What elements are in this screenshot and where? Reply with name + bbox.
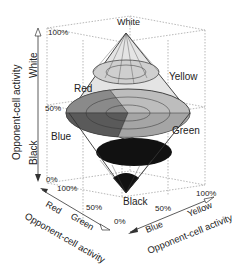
solid-blue-label: Blue xyxy=(51,131,71,142)
left-tick-50: 50% xyxy=(86,203,102,212)
solid-white-label: White xyxy=(117,17,140,27)
vertical-tick-0: 0% xyxy=(46,175,58,184)
vertical-axis-black-label: Black xyxy=(28,140,39,165)
left-axis-title: Opponent-cell activity xyxy=(23,210,107,265)
right-tick-100: 100% xyxy=(196,189,216,198)
left-axis-red-label: Red xyxy=(44,199,63,216)
right-axis-blue-label: Blue xyxy=(144,219,164,235)
right-tick-50: 50% xyxy=(155,204,171,213)
vertical-tick-50: 50% xyxy=(45,104,61,113)
right-tick-0: 0% xyxy=(114,217,126,226)
solid-black-label: Black xyxy=(123,196,148,207)
solid-green-label: Green xyxy=(172,125,200,136)
solid-red-label: Red xyxy=(74,83,92,94)
solid-yellow-label: Yellow xyxy=(169,71,198,82)
vertical-axis-white-label: White xyxy=(28,52,39,78)
vertical-axis-title: Opponent-cell activity xyxy=(11,64,22,160)
opponent-color-space-diagram: Opponent-cell activity White Black 100% … xyxy=(0,0,238,267)
vertical-tick-100: 100% xyxy=(48,28,68,37)
left-tick-100: 100% xyxy=(57,184,77,193)
